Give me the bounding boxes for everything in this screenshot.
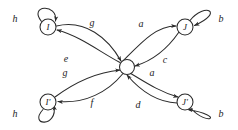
edge-label-d: d — [136, 100, 141, 110]
self-loop-label-bottom-left: h — [13, 109, 18, 119]
edge-label-e: e — [64, 54, 68, 64]
diagram-canvas: I J I' J' — [0, 0, 238, 130]
state-transition-diagram: I J I' J' h b h b g e a c g f a d — [0, 0, 238, 130]
edge-c-path — [135, 32, 179, 66]
edge-label-g-lower: g — [63, 68, 68, 78]
node-top-left[interactable]: I — [40, 19, 56, 35]
edge-label-f: f — [91, 98, 94, 108]
self-loop-label-bottom-right: b — [219, 109, 224, 119]
node-center[interactable] — [120, 60, 135, 75]
edge-label-g-upper: g — [90, 18, 95, 28]
center-node-circle[interactable] — [120, 60, 135, 75]
node-bottom-right[interactable]: J' — [177, 94, 193, 110]
node-top-right[interactable]: J — [177, 19, 193, 35]
edge-label-c: c — [163, 55, 167, 65]
self-loop-label-top-left: h — [13, 14, 18, 24]
edge-label-a-upper: a — [139, 19, 144, 29]
edge-label-a-lower: a — [150, 68, 155, 78]
self-loop-top-right-path — [190, 10, 210, 25]
self-loop-label-top-right: b — [219, 14, 224, 24]
self-loop-bottom-right-path — [188, 109, 210, 119]
node-bottom-left[interactable]: I' — [40, 94, 56, 110]
edge-d-path — [127, 75, 177, 103]
edge-a-upper-path — [122, 26, 176, 62]
